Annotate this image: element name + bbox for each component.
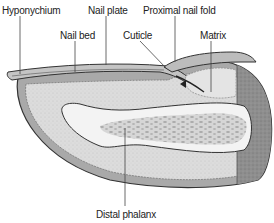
leader-line-cuticle	[140, 41, 166, 68]
nail-anatomy-diagram: Hyponychium Nail plate Proximal nail fol…	[0, 0, 274, 223]
label-cuticle: Cuticle	[123, 30, 152, 41]
label-hyponychium: Hyponychium	[2, 5, 60, 16]
label-nail-bed: Nail bed	[60, 30, 95, 41]
label-matrix: Matrix	[200, 30, 226, 41]
label-proximal-nail-fold: Proximal nail fold	[143, 5, 216, 16]
label-nail-plate: Nail plate	[88, 5, 128, 16]
label-distal-phalanx: Distal phalanx	[96, 209, 156, 220]
